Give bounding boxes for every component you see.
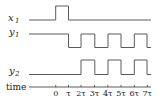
timing-diagram: x 1 y 1 y 2 time 0 τ 2τ 3τ 4τ 5τ 6τ 7τ: [0, 0, 162, 105]
svg-text:x: x: [8, 12, 14, 23]
svg-text:1: 1: [15, 17, 19, 25]
svg-text:1: 1: [15, 31, 19, 39]
tick-label-1: τ: [66, 89, 71, 98]
waveform-x1: [29, 6, 151, 20]
tick-label-7: 7τ: [143, 89, 153, 98]
tick-label-5: 5τ: [116, 89, 126, 98]
tick-label-6: 6τ: [130, 89, 140, 98]
tick-label-3: 3τ: [90, 89, 100, 98]
tick-label-4: 4τ: [103, 89, 113, 98]
tick-label-2: 2τ: [76, 89, 86, 98]
time-axis: 0 τ 2τ 3τ 4τ 5τ 6τ 7τ: [29, 85, 153, 98]
label-x1: x 1: [8, 12, 19, 25]
time-axis-label: time: [6, 82, 26, 92]
svg-text:y: y: [8, 26, 15, 37]
svg-text:y: y: [8, 65, 15, 76]
label-y1: y 1: [8, 26, 19, 39]
label-y2: y 2: [8, 65, 20, 78]
tick-label-0: 0: [53, 89, 58, 98]
waveform-y1: [29, 34, 151, 48]
waveform-y2: [29, 60, 151, 75]
svg-text:2: 2: [14, 70, 20, 78]
